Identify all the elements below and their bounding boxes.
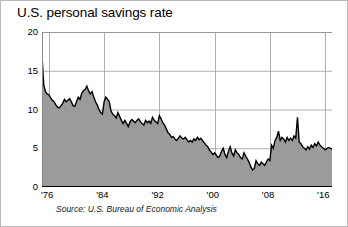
x-axis-tick-00: '00	[207, 189, 219, 200]
chart-screenshot: U.S. personal savings rate 05101520 '76'…	[0, 0, 348, 227]
x-axis-tick-76: '76	[41, 189, 53, 200]
area-fill	[42, 55, 332, 187]
plot-area	[42, 32, 332, 187]
x-axis-tick-08: '08	[262, 189, 274, 200]
x-axis-tick-92: '92	[151, 189, 163, 200]
savings-rate-area-chart	[42, 32, 332, 187]
x-axis-tick-84: '84	[96, 189, 108, 200]
source-note: Source: U.S. Bureau of Economic Analysis	[56, 204, 217, 214]
x-axis-labels: '76'84'92'00'08'16	[1, 189, 348, 203]
x-axis-tick-16: '16	[317, 189, 329, 200]
y-axis-tick-5: 5	[33, 142, 38, 153]
y-axis-tick-15: 15	[27, 65, 38, 76]
page-title: U.S. personal savings rate	[17, 5, 173, 20]
y-axis-tick-20: 20	[27, 26, 38, 37]
y-axis-labels: 05101520	[1, 32, 38, 187]
y-axis-tick-10: 10	[27, 104, 38, 115]
